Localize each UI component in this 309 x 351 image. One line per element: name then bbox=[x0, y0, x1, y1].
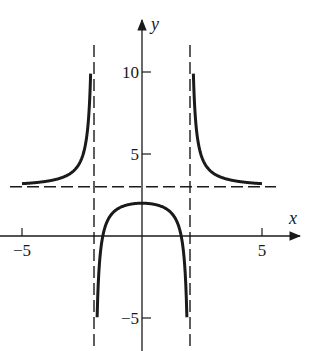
y-tick-label: 5 bbox=[131, 145, 140, 164]
right-upper-branch-curve bbox=[193, 74, 262, 184]
y-tick-label: 10 bbox=[122, 63, 139, 82]
axis-labels: −55105−5xy bbox=[13, 14, 297, 328]
y-axis-label: y bbox=[149, 14, 159, 34]
x-tick-label: 5 bbox=[258, 241, 267, 260]
x-axis-label: x bbox=[288, 208, 297, 228]
left-upper-branch-curve bbox=[22, 74, 91, 184]
x-tick-label: −5 bbox=[13, 241, 31, 260]
y-tick-label: −5 bbox=[121, 309, 139, 328]
axes bbox=[0, 20, 300, 351]
function-graph: −55105−5xy bbox=[0, 0, 309, 351]
asymptotes bbox=[10, 45, 276, 351]
